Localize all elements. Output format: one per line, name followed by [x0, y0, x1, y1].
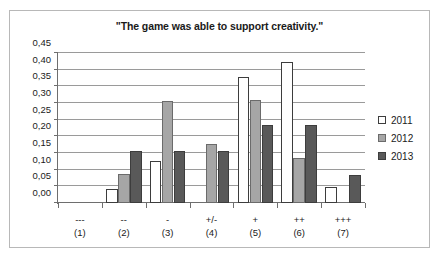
bar-group [321, 53, 365, 203]
bar-2012-5 [250, 100, 262, 203]
bar-2012-3 [162, 101, 174, 203]
legend-label: 2013 [391, 151, 413, 162]
legend-label: 2012 [391, 133, 413, 144]
x-axis-tick [233, 203, 234, 208]
bar-group [233, 53, 277, 203]
x-category-number: (1) [74, 226, 86, 239]
x-category-symbol: -- [118, 213, 130, 226]
x-category-number: (4) [206, 226, 218, 239]
bar-2011-3 [150, 161, 162, 203]
x-category-symbol: --- [74, 213, 86, 226]
legend-label: 2011 [391, 115, 413, 126]
x-category-number: (6) [293, 226, 305, 239]
bar-2011-6 [281, 62, 293, 203]
legend-swatch-icon [378, 134, 386, 142]
y-axis-label: 0,20 [33, 120, 52, 131]
x-category-symbol: ++ [293, 213, 305, 226]
y-axis-label: 0,35 [33, 70, 52, 81]
x-axis-tick [58, 203, 59, 208]
y-axis-label: 0,15 [33, 137, 52, 148]
x-category-number: (2) [118, 226, 130, 239]
bar-2013-5 [262, 125, 274, 203]
y-axis-label: 0,40 [33, 53, 52, 64]
x-category-symbol: +/- [206, 213, 218, 226]
x-axis-tick [190, 203, 191, 208]
y-axis-label: 0,05 [33, 170, 52, 181]
legend-item-2011[interactable]: 2011 [378, 111, 413, 129]
x-axis-category-1: ---(1) [74, 213, 86, 239]
y-axis-label: 0,45 [33, 37, 52, 48]
x-axis-category-3: -(3) [162, 213, 174, 239]
x-category-symbol: - [162, 213, 174, 226]
x-axis-tick [365, 203, 366, 208]
bar-2011-7 [325, 187, 337, 203]
bar-group [102, 53, 146, 203]
x-category-number: (7) [335, 226, 352, 239]
legend-swatch-icon [378, 116, 386, 124]
x-axis-category-4: +/-(4) [206, 213, 218, 239]
bar-group [190, 53, 234, 203]
bar-2013-6 [305, 125, 317, 203]
plot-area: 0,000,050,100,150,200,250,300,350,400,45… [58, 53, 365, 203]
bar-2011-2 [106, 189, 118, 203]
x-category-symbol: +++ [335, 213, 352, 226]
x-axis-category-7: +++(7) [335, 213, 352, 239]
y-axis-label: 0,25 [33, 103, 52, 114]
x-category-number: (5) [250, 226, 262, 239]
bar-group [146, 53, 190, 203]
x-axis-category-2: --(2) [118, 213, 130, 239]
bar-2013-7 [349, 175, 361, 203]
y-axis-label: 0,30 [33, 87, 52, 98]
legend-item-2013[interactable]: 2013 [378, 147, 413, 165]
x-axis-tick [146, 203, 147, 208]
x-category-symbol: + [250, 213, 262, 226]
x-axis-tick [102, 203, 103, 208]
bar-2011-5 [238, 77, 250, 203]
x-axis-tick [277, 203, 278, 208]
legend-item-2012[interactable]: 2012 [378, 129, 413, 147]
bar-group [58, 53, 102, 203]
y-axis-label: 0,10 [33, 153, 52, 164]
legend: 201120122013 [378, 111, 413, 165]
bar-group [277, 53, 321, 203]
x-category-number: (3) [162, 226, 174, 239]
x-axis-tick [321, 203, 322, 208]
chart-container: "The game was able to support creativity… [9, 10, 430, 248]
bar-2013-4 [218, 151, 230, 203]
bar-2012-6 [293, 158, 305, 203]
x-axis-category-5: +(5) [250, 213, 262, 239]
y-axis-label: 0,00 [33, 187, 52, 198]
bar-2012-2 [118, 174, 130, 203]
legend-swatch-icon [378, 152, 386, 160]
x-axis-category-6: ++(6) [293, 213, 305, 239]
bar-2012-4 [206, 144, 218, 203]
bar-2013-3 [174, 151, 186, 203]
chart-title: "The game was able to support creativity… [10, 20, 429, 32]
bar-2013-2 [130, 151, 142, 203]
